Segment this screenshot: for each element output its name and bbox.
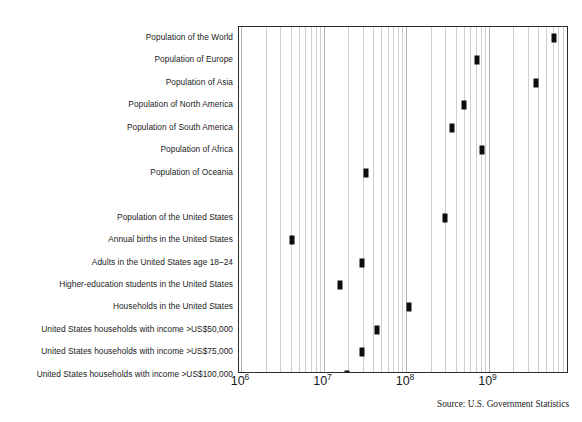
- gridline: [348, 27, 349, 372]
- gridline: [481, 27, 482, 372]
- gridline: [363, 27, 364, 372]
- gridline: [464, 27, 465, 372]
- plot-area: [238, 26, 568, 373]
- gridline: [402, 27, 403, 372]
- x-tick-label: 107: [313, 374, 332, 388]
- gridline: [324, 27, 325, 372]
- gridline: [445, 27, 446, 372]
- gridline: [567, 27, 568, 372]
- gridline: [398, 27, 399, 372]
- data-point-marker: [289, 236, 294, 245]
- category-label-column: Population of the WorldPopulation of Eur…: [0, 0, 233, 372]
- category-label: Population of Africa: [0, 144, 233, 154]
- x-tick-label: 106: [231, 374, 250, 388]
- gridline: [393, 27, 394, 372]
- gridline: [373, 27, 374, 372]
- gridline: [406, 27, 407, 372]
- gridline: [291, 27, 292, 372]
- category-label: Population of Asia: [0, 77, 233, 87]
- data-point-marker: [534, 78, 539, 87]
- gridline: [553, 27, 554, 372]
- gridline: [558, 27, 559, 372]
- data-point-marker: [449, 123, 454, 132]
- gridline: [299, 27, 300, 372]
- gridline: [266, 27, 267, 372]
- category-label: Population of Oceania: [0, 167, 233, 177]
- gridline: [476, 27, 477, 372]
- gridline: [388, 27, 389, 372]
- gridline: [456, 27, 457, 372]
- gridline: [431, 27, 432, 372]
- data-point-marker: [461, 101, 466, 110]
- x-axis-tick-labels: 106107108109: [0, 374, 582, 396]
- gridline: [489, 27, 490, 372]
- data-point-marker: [552, 34, 557, 43]
- log-scale-dot-chart: Population of the WorldPopulation of Eur…: [0, 0, 582, 422]
- gridline: [320, 27, 321, 372]
- data-point-marker: [344, 370, 349, 373]
- x-tick-label: 109: [478, 374, 497, 388]
- gridline: [563, 27, 564, 372]
- data-point-marker: [480, 146, 485, 155]
- category-label: Population of the World: [0, 32, 233, 42]
- gridline: [280, 27, 281, 372]
- data-point-marker: [475, 56, 480, 65]
- gridline: [546, 27, 547, 372]
- category-label: Population of North America: [0, 99, 233, 109]
- category-label: Population of South America: [0, 122, 233, 132]
- category-label: United States households with income >US…: [0, 346, 233, 356]
- data-point-marker: [359, 258, 364, 267]
- category-label: Annual births in the United States: [0, 234, 233, 244]
- category-label: Population of Europe: [0, 54, 233, 64]
- gridline: [381, 27, 382, 372]
- category-label: United States households with income >US…: [0, 324, 233, 334]
- gridline: [241, 27, 242, 372]
- gridline: [485, 27, 486, 372]
- category-label: Households in the United States: [0, 301, 233, 311]
- data-point-marker: [375, 325, 380, 334]
- data-point-marker: [442, 213, 447, 222]
- data-point-marker: [359, 348, 364, 357]
- data-point-marker: [407, 303, 412, 312]
- gridline: [316, 27, 317, 372]
- gridline: [305, 27, 306, 372]
- category-label: Adults in the United States age 18–24: [0, 257, 233, 267]
- x-tick-label: 108: [396, 374, 415, 388]
- category-label: Population of the United States: [0, 212, 233, 222]
- data-point-marker: [338, 280, 343, 289]
- gridline: [470, 27, 471, 372]
- gridline: [311, 27, 312, 372]
- source-note: Source: U.S. Government Statistics: [437, 399, 569, 409]
- gridline: [513, 27, 514, 372]
- data-point-marker: [364, 168, 369, 177]
- category-label: Higher-education students in the United …: [0, 279, 233, 289]
- gridline: [528, 27, 529, 372]
